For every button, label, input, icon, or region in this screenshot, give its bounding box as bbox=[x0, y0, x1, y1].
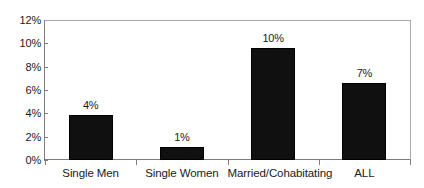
bar-group: 4% bbox=[45, 21, 136, 160]
y-axis-tick-mark bbox=[44, 113, 48, 114]
bar-group: 1% bbox=[136, 21, 227, 160]
x-axis-tick-label: Married/Cohabitating bbox=[228, 166, 319, 180]
bar[interactable] bbox=[160, 147, 204, 160]
y-axis-tick-label: 4% bbox=[1, 108, 41, 119]
bar[interactable] bbox=[251, 48, 295, 160]
bar[interactable] bbox=[342, 83, 386, 160]
y-axis-tick-mark bbox=[44, 90, 48, 91]
x-axis-tick-label: ALL bbox=[319, 166, 410, 180]
bar-group: 7% bbox=[319, 21, 410, 160]
x-axis-tick-mark bbox=[136, 160, 137, 165]
x-axis-category-labels: Single MenSingle WomenMarried/Cohabitati… bbox=[45, 166, 410, 186]
bar-value-label: 10% bbox=[262, 33, 283, 44]
bar-chart: 0%2%4%6%8%10%12% 4%1%10%7% Single MenSin… bbox=[0, 0, 424, 188]
y-axis-tick-label: 10% bbox=[1, 38, 41, 49]
x-axis-tick-mark bbox=[228, 160, 229, 165]
y-axis-tick-label: 12% bbox=[1, 15, 41, 26]
y-axis-tick-mark bbox=[44, 43, 48, 44]
bar-group: 10% bbox=[228, 21, 319, 160]
bars-layer: 4%1%10%7% bbox=[45, 21, 410, 160]
y-axis-tick-label: 2% bbox=[1, 131, 41, 142]
y-axis: 0%2%4%6%8%10%12% bbox=[0, 20, 41, 160]
bar[interactable] bbox=[69, 115, 113, 160]
y-axis-tick-label: 6% bbox=[1, 85, 41, 96]
y-axis-tick-mark bbox=[44, 67, 48, 68]
bar-value-label: 4% bbox=[83, 100, 99, 111]
x-axis-tick-mark bbox=[410, 160, 411, 165]
x-axis-tick-mark bbox=[45, 160, 46, 165]
y-axis-tick-label: 8% bbox=[1, 61, 41, 72]
y-axis-tick-label: 0% bbox=[1, 155, 41, 166]
x-axis-tick-label: Single Women bbox=[136, 166, 227, 180]
bar-value-label: 1% bbox=[174, 132, 190, 143]
x-axis-tick-label: Single Men bbox=[45, 166, 136, 180]
y-axis-tick-mark bbox=[44, 137, 48, 138]
x-axis-tick-mark bbox=[319, 160, 320, 165]
bar-value-label: 7% bbox=[357, 68, 373, 79]
